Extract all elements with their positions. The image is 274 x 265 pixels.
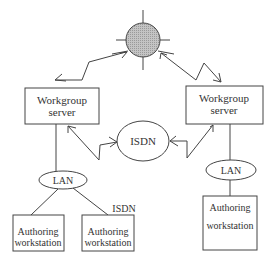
network-diagram: Workgroup server Workgroup server ISDN L… bbox=[0, 0, 274, 265]
left-server-label-line2: server bbox=[49, 106, 76, 118]
left-lan-ws1-line bbox=[31, 189, 58, 215]
left-ws1-label-line2: workstation bbox=[14, 237, 61, 248]
left-lan-ws2-line bbox=[73, 188, 108, 215]
left-authoring-workstation-2: Authoring workstation bbox=[82, 215, 134, 251]
isdn-hub: ISDN bbox=[117, 121, 169, 161]
left-server-label-line1: Workgroup bbox=[37, 94, 87, 106]
right-lan-label: LAN bbox=[221, 165, 242, 176]
left-ws2-label-line2: workstation bbox=[84, 237, 131, 248]
wan-link-left bbox=[55, 52, 127, 81]
right-server-label-line1: Workgroup bbox=[199, 92, 249, 104]
left-ws1-label-line1: Authoring bbox=[17, 226, 58, 237]
left-workgroup-server: Workgroup server bbox=[25, 88, 99, 124]
right-lan: LAN bbox=[206, 160, 256, 180]
left-lan-label: LAN bbox=[53, 175, 74, 186]
network-globe-icon bbox=[112, 10, 174, 70]
wan-link-right bbox=[160, 53, 221, 82]
left-ws2-label-line1: Authoring bbox=[87, 226, 128, 237]
right-server-label-line2: server bbox=[211, 104, 238, 116]
right-ws-label-line2: workstation bbox=[206, 220, 253, 231]
right-ws-label-line1: Authoring bbox=[209, 202, 250, 213]
isdn-link-left bbox=[68, 126, 117, 160]
isdn-hub-label: ISDN bbox=[130, 135, 156, 147]
right-authoring-workstation: Authoring workstation bbox=[203, 196, 257, 250]
right-workgroup-server: Workgroup server bbox=[186, 86, 263, 124]
isdn-annotation: ISDN bbox=[112, 203, 135, 214]
left-lan: LAN bbox=[39, 171, 87, 189]
isdn-link-right bbox=[170, 125, 213, 158]
left-authoring-workstation-1: Authoring workstation bbox=[13, 215, 64, 251]
